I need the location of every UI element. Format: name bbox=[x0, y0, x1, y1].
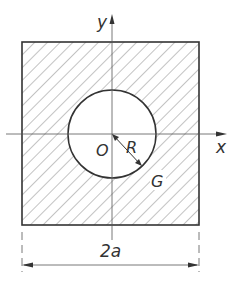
dimension-arrow-right-icon bbox=[188, 263, 199, 268]
diagram-canvas: y x O R G 2a bbox=[0, 0, 237, 281]
x-axis-arrow-icon bbox=[216, 132, 227, 137]
y-axis-label: y bbox=[96, 12, 108, 32]
x-axis-label: x bbox=[215, 137, 227, 157]
region-label: G bbox=[151, 172, 163, 191]
radius-label: R bbox=[126, 138, 137, 157]
origin-label: O bbox=[96, 141, 109, 160]
dimension-label: 2a bbox=[100, 241, 121, 261]
y-axis-arrow-icon bbox=[110, 14, 115, 24]
dimension-arrow-left-icon bbox=[22, 263, 33, 268]
